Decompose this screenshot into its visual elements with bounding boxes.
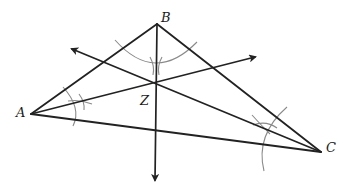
vertex-label-c: C bbox=[326, 140, 336, 155]
vertex-label-b: B bbox=[160, 10, 171, 25]
side-ab bbox=[31, 24, 157, 114]
arc-mark-b-left bbox=[150, 57, 154, 75]
triangle-diagram: B A C Z bbox=[0, 0, 348, 188]
side-ac bbox=[31, 114, 321, 152]
triangle-abc bbox=[31, 24, 321, 152]
arc-mark-b-right bbox=[158, 57, 162, 75]
intersection-label-z: Z bbox=[139, 93, 150, 108]
angle-bisectors bbox=[31, 24, 321, 180]
vertex-label-a: A bbox=[15, 105, 25, 120]
side-bc bbox=[157, 24, 321, 152]
bisector-from-b bbox=[155, 24, 157, 180]
